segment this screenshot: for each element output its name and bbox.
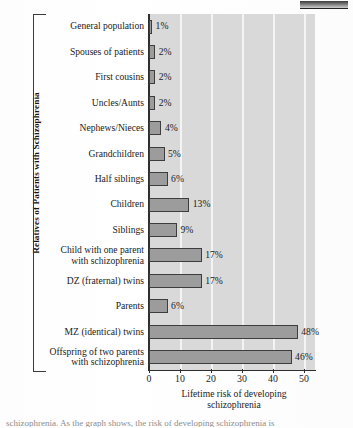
bar — [149, 274, 202, 288]
bar — [149, 299, 168, 313]
bar-row: Grandchildren5% — [0, 141, 353, 166]
category-label: General population — [38, 21, 144, 32]
bar — [149, 70, 155, 84]
bar-row: Nephews/Nieces4% — [0, 116, 353, 141]
bar-row: Parents6% — [0, 294, 353, 319]
bar-value-label: 6% — [171, 172, 184, 186]
x-tick-30 — [242, 369, 243, 373]
bar-row: Spouses of patients2% — [0, 39, 353, 64]
page-caption-fragment: schizophrenia. As the graph shows, the r… — [6, 418, 348, 427]
category-label: Half siblings — [38, 174, 144, 185]
bar-row: DZ (fraternal) twins17% — [0, 268, 353, 293]
bar — [149, 198, 189, 212]
bar — [149, 20, 152, 34]
bar-row: Children13% — [0, 192, 353, 217]
x-axis-ticks: 01020304050 — [0, 369, 353, 385]
x-tick-label: 50 — [299, 373, 309, 384]
bar — [149, 325, 298, 339]
category-label: MZ (identical) twins — [38, 327, 144, 338]
bar-rows: General population1%Spouses of patients2… — [0, 14, 353, 370]
x-tick-20 — [211, 369, 212, 373]
bar-value-label: 48% — [301, 325, 319, 339]
x-axis-title: Lifetime risk of developing schizophreni… — [149, 388, 319, 411]
category-label: Offspring of two parents with schizophre… — [38, 347, 144, 368]
bar-row: Uncles/Aunts2% — [0, 90, 353, 115]
bar — [149, 45, 155, 59]
x-tick-label: 30 — [237, 373, 247, 384]
bar — [149, 350, 292, 364]
bar-row: Siblings9% — [0, 217, 353, 242]
x-tick-label: 0 — [147, 373, 152, 384]
category-label: Child with one parent with schizophrenia — [38, 245, 144, 266]
bar-value-label: 46% — [295, 350, 313, 364]
bar-chart-figure: Relatives of Patients with Schizophrenia… — [0, 0, 353, 428]
bar-value-label: 9% — [180, 223, 193, 237]
x-tick-label: 40 — [268, 373, 278, 384]
bar-value-label: 1% — [156, 19, 169, 33]
category-label: Spouses of patients — [38, 47, 144, 58]
x-tick-label: 20 — [206, 373, 216, 384]
bar-row: General population1% — [0, 14, 353, 39]
bar-value-label: 17% — [205, 274, 223, 288]
category-label: First cousins — [38, 72, 144, 83]
x-tick-0 — [149, 369, 150, 373]
x-tick-50 — [304, 369, 305, 373]
category-label: Siblings — [38, 225, 144, 236]
bar-row: Offspring of two parents with schizophre… — [0, 345, 353, 370]
category-label: Parents — [38, 301, 144, 312]
bar-value-label: 13% — [193, 197, 211, 211]
x-tick-10 — [180, 369, 181, 373]
bar — [149, 96, 155, 110]
bar-value-label: 4% — [165, 121, 178, 135]
bar — [149, 121, 161, 135]
bar — [149, 172, 168, 186]
bar-row: First cousins2% — [0, 65, 353, 90]
category-label: Grandchildren — [38, 149, 144, 160]
x-tick-40 — [273, 369, 274, 373]
bar-value-label: 2% — [159, 45, 172, 59]
category-label: Nephews/Nieces — [38, 123, 144, 134]
bar-row: MZ (identical) twins48% — [0, 319, 353, 344]
bar-value-label: 17% — [205, 248, 223, 262]
bar — [149, 248, 202, 262]
bar-row: Half siblings6% — [0, 167, 353, 192]
bar-value-label: 6% — [171, 299, 184, 313]
bar-value-label: 2% — [159, 96, 172, 110]
category-label: Uncles/Aunts — [38, 98, 144, 109]
category-label: Children — [38, 199, 144, 210]
bar — [149, 223, 177, 237]
category-label: DZ (fraternal) twins — [38, 276, 144, 287]
bar-row: Child with one parent with schizophrenia… — [0, 243, 353, 268]
bar — [149, 147, 165, 161]
x-tick-label: 10 — [175, 373, 185, 384]
bar-value-label: 5% — [168, 147, 181, 161]
bar-value-label: 2% — [159, 70, 172, 84]
